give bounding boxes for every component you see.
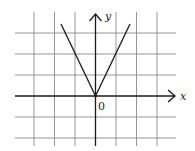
y-axis-label: y	[104, 10, 112, 23]
y-axis	[90, 14, 102, 146]
x-axis-label: x	[180, 90, 187, 103]
origin-point	[94, 95, 97, 98]
coordinate-plane: x y 0	[0, 0, 195, 151]
origin-label: 0	[98, 100, 105, 113]
